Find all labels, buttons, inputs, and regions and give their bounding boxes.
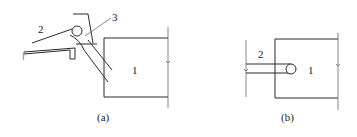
part3-diagonal-1 xyxy=(88,40,112,70)
support-break-mark xyxy=(23,52,24,60)
panel-b: 2 1 (b) xyxy=(244,33,340,124)
label-2a: 2 xyxy=(38,23,44,35)
body-outline-b xyxy=(275,39,338,98)
caption-b: (b) xyxy=(281,111,294,124)
support-bar xyxy=(24,48,75,59)
label-3a: 3 xyxy=(112,11,118,23)
hinge-circle xyxy=(72,26,82,36)
caption-a: (a) xyxy=(97,111,110,124)
panel-a: 2 3 1 (a) xyxy=(23,11,170,124)
rod-end-circle xyxy=(286,64,296,74)
label-2b: 2 xyxy=(258,48,264,60)
label-1b: 1 xyxy=(308,64,314,76)
label-1a: 1 xyxy=(132,64,138,76)
diagram-canvas: 2 3 1 (a) 2 1 (b) xyxy=(0,0,357,137)
